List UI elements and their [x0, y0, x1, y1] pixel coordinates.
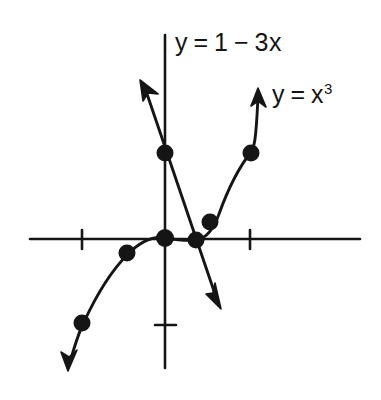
- graph-canvas: [0, 0, 381, 400]
- marked-point: [243, 145, 260, 162]
- linear-graph-arrow-downright: [206, 283, 221, 309]
- cubic-equation-label-base: y = x: [272, 80, 324, 108]
- cubic-equation-label: y = x3: [272, 82, 333, 107]
- linear-equation-label: y = 1 − 3x: [175, 30, 282, 55]
- cubic-curve-arrow-down: [61, 350, 77, 371]
- math-graph-figure: y = 1 − 3x y = x3: [0, 0, 381, 400]
- marked-point: [74, 315, 91, 332]
- linear-graph-group: [140, 80, 221, 309]
- marked-point: [156, 229, 174, 247]
- marked-point: [188, 232, 205, 249]
- marked-point: [157, 145, 174, 162]
- marked-point: [202, 214, 219, 231]
- marked-point: [119, 245, 136, 262]
- linear-graph-path: [145, 88, 216, 297]
- cubic-equation-label-exponent: 3: [324, 80, 333, 97]
